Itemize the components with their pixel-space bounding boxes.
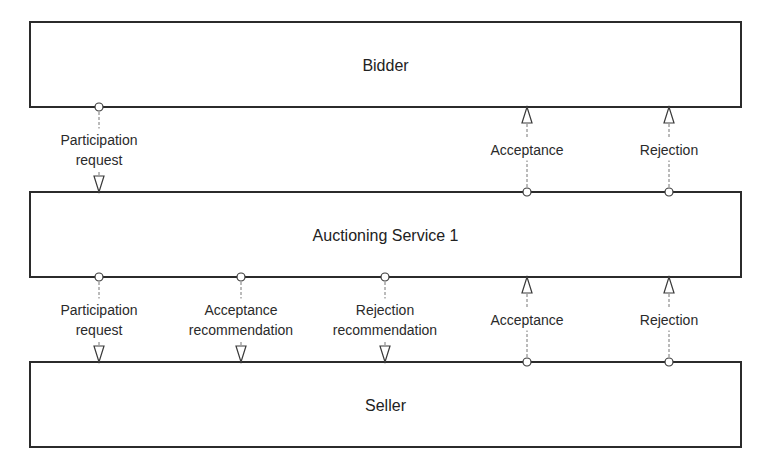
connector-label: Acceptance — [490, 312, 563, 328]
connector-label: Acceptance — [204, 302, 277, 318]
port-circle-icon — [665, 358, 673, 366]
connector-label: Participation — [60, 132, 137, 148]
arrow-down-icon — [380, 346, 390, 362]
box-label: Bidder — [362, 57, 409, 74]
connector-label: Rejection — [356, 302, 414, 318]
port-circle-icon — [95, 103, 103, 111]
box-seller: Seller — [30, 362, 741, 447]
arrow-up-icon — [522, 277, 532, 293]
connector-auctioning-service-1-to-seller: Participationrequest — [39, 273, 159, 362]
connector-auctioning-service-1-to-bidder: Acceptance — [467, 107, 587, 196]
connector-auctioning-service-1-to-seller: Rejectionrecommendation — [325, 273, 445, 362]
connector-label: Participation — [60, 302, 137, 318]
box-label: Auctioning Service 1 — [313, 227, 459, 244]
connector-auctioning-service-1-to-bidder: Rejection — [609, 107, 729, 196]
arrow-up-icon — [522, 107, 532, 123]
arrow-down-icon — [94, 346, 104, 362]
arrow-down-icon — [94, 176, 104, 192]
connector-seller-to-auctioning-service-1: Acceptance — [467, 277, 587, 366]
arrow-down-icon — [236, 346, 246, 362]
connector-bidder-to-auctioning-service-1: Participationrequest — [39, 103, 159, 192]
box-label: Seller — [365, 397, 407, 414]
arrow-up-icon — [664, 277, 674, 293]
connector-seller-to-auctioning-service-1: Rejection — [609, 277, 729, 366]
port-circle-icon — [237, 273, 245, 281]
port-circle-icon — [95, 273, 103, 281]
connector-label: request — [76, 152, 123, 168]
port-circle-icon — [523, 358, 531, 366]
arrow-up-icon — [664, 107, 674, 123]
connector-label: recommendation — [333, 322, 437, 338]
interaction-diagram: BidderAuctioning Service 1Seller Partici… — [0, 0, 763, 475]
box-bidder: Bidder — [30, 22, 741, 107]
connector-label: request — [76, 322, 123, 338]
connector-auctioning-service-1-to-seller: Acceptancerecommendation — [181, 273, 301, 362]
connector-label: recommendation — [189, 322, 293, 338]
port-circle-icon — [381, 273, 389, 281]
connector-label: Acceptance — [490, 142, 563, 158]
box-auctioning-service-1: Auctioning Service 1 — [30, 192, 741, 277]
connector-label: Rejection — [640, 312, 698, 328]
port-circle-icon — [665, 188, 673, 196]
connector-label: Rejection — [640, 142, 698, 158]
boxes-layer: BidderAuctioning Service 1Seller — [30, 22, 741, 447]
port-circle-icon — [523, 188, 531, 196]
